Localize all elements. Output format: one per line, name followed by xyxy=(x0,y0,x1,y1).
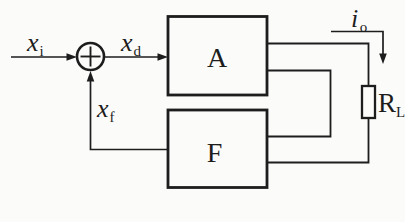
load-resistor xyxy=(362,86,375,118)
output-wire-top xyxy=(267,44,369,87)
diagram-canvas: A F xi xd xf io RL xyxy=(0,0,405,222)
feedback-block-label: F xyxy=(207,137,223,168)
input-signal-label: xi xyxy=(26,28,44,59)
input-arrowhead xyxy=(67,53,78,61)
load-resistor-label: RL xyxy=(378,88,405,120)
difference-arrowhead xyxy=(158,53,169,61)
amplifier-to-feedback-wire xyxy=(267,71,331,137)
feedback-signal-label: xf xyxy=(96,94,115,125)
difference-signal-label: xd xyxy=(120,28,142,59)
feedback-arrowhead xyxy=(87,71,95,82)
feedback-amplifier-block-diagram: A F xi xd xf io RL xyxy=(0,0,405,222)
output-return-wire xyxy=(267,118,369,163)
output-current-label: io xyxy=(351,4,367,35)
amplifier-block-label: A xyxy=(207,42,228,73)
output-current-arrowhead xyxy=(379,54,387,65)
